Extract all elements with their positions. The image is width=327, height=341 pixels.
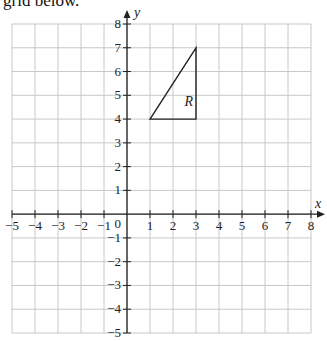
x-tick-label: 1 xyxy=(147,218,154,233)
x-tick-label: −3 xyxy=(51,218,65,233)
x-tick-label: 3 xyxy=(193,218,200,233)
y-tick-label: 3 xyxy=(115,135,122,150)
x-axis-arrow-icon xyxy=(317,211,325,218)
x-tick-label: 8 xyxy=(308,218,315,233)
x-axis-label: x xyxy=(314,196,322,211)
x-tick-label: 7 xyxy=(285,218,292,233)
x-tick-label: −4 xyxy=(28,218,42,233)
y-tick-label: −1 xyxy=(107,230,121,245)
y-tick-label: 5 xyxy=(115,87,122,102)
x-tick-label: −5 xyxy=(5,218,19,233)
y-tick-label: −3 xyxy=(107,277,121,292)
y-tick-label: 4 xyxy=(115,111,122,126)
y-tick-label: −5 xyxy=(107,325,121,340)
y-tick-label: 2 xyxy=(115,159,122,174)
origin-label: 0 xyxy=(115,216,122,231)
x-tick-label: −2 xyxy=(74,218,88,233)
coordinate-grid: xy−5−4−3−2−11234567887654321−1−2−3−4−50R xyxy=(0,0,327,341)
x-tick-label: 6 xyxy=(262,218,269,233)
y-tick-label: −4 xyxy=(107,301,121,316)
y-tick-label: 1 xyxy=(115,182,122,197)
x-tick-label: 4 xyxy=(216,218,223,233)
x-tick-label: 5 xyxy=(239,218,246,233)
y-tick-label: 8 xyxy=(115,16,122,31)
y-axis-arrow-icon xyxy=(124,10,131,18)
y-tick-label: −2 xyxy=(107,254,121,269)
y-tick-label: 7 xyxy=(115,40,122,55)
y-tick-label: 6 xyxy=(115,64,122,79)
shape-label: R xyxy=(184,94,194,109)
x-tick-label: 2 xyxy=(170,218,177,233)
y-axis-label: y xyxy=(132,5,141,20)
